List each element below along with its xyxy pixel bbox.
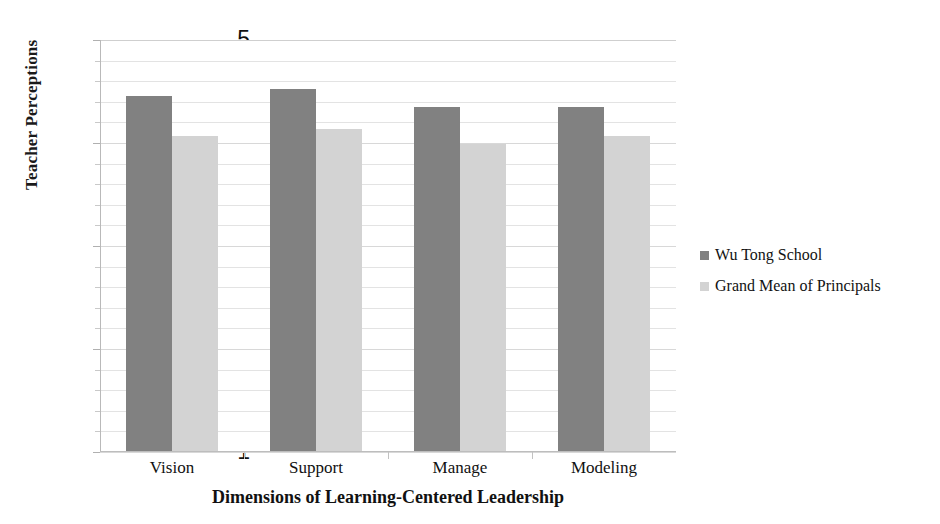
- plot-area: [100, 40, 676, 452]
- legend-swatch-icon: [700, 282, 709, 291]
- legend-entry: Wu Tong School: [700, 246, 881, 264]
- bar: [460, 144, 506, 452]
- bar: [270, 89, 316, 452]
- bar-chart-figure: Teacher Perceptions 54321 VisionSupportM…: [0, 0, 940, 524]
- y-tick-major: [93, 452, 100, 453]
- x-tick-label: Manage: [380, 458, 540, 478]
- x-tick-label: Modeling: [524, 458, 684, 478]
- bars-layer: [100, 40, 676, 452]
- x-tick-label: Vision: [92, 458, 252, 478]
- legend-label: Grand Mean of Principals: [715, 277, 881, 295]
- bar: [172, 136, 218, 452]
- legend-label: Wu Tong School: [715, 246, 822, 264]
- bar: [558, 107, 604, 452]
- bar: [316, 129, 362, 452]
- bar: [126, 96, 172, 452]
- x-tick-label: Support: [236, 458, 396, 478]
- y-tick-major: [93, 246, 100, 247]
- legend-entry: Grand Mean of Principals: [700, 277, 881, 295]
- y-axis-title: Teacher Perceptions: [22, 0, 42, 190]
- legend-swatch-icon: [700, 251, 709, 260]
- y-tick-major: [93, 349, 100, 350]
- y-tick-major: [93, 143, 100, 144]
- chart-legend: Wu Tong SchoolGrand Mean of Principals: [700, 246, 881, 308]
- bar: [604, 136, 650, 452]
- y-tick-major: [93, 40, 100, 41]
- x-axis-title: Dimensions of Learning-Centered Leadersh…: [100, 487, 676, 508]
- bar: [414, 107, 460, 452]
